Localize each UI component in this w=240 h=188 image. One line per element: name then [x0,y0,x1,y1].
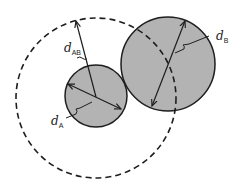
label-d-a: dA [51,114,64,129]
label-d-b: dB [216,29,229,44]
collision-diameter-diagram: dAB dA dB [0,0,240,188]
label-d-ab: dAB [64,41,81,56]
